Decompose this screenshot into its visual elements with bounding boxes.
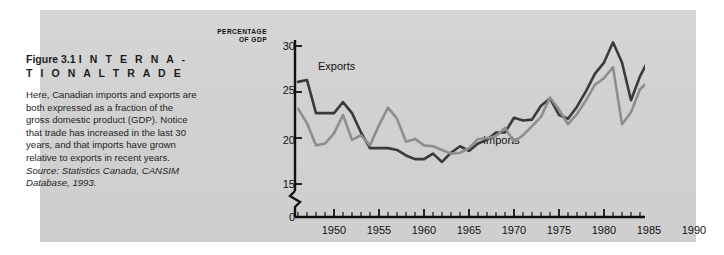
caption-figure-title-line1: I N T E R N A -	[79, 53, 188, 65]
caption-source: Source: Statistics Canada, CANSIM Databa…	[26, 165, 179, 189]
data-lines-group	[298, 42, 645, 162]
line-chart: PERCENTAGE OF GDP 30 25 20 15 0 1950 195…	[195, 8, 645, 232]
axes-group	[290, 40, 645, 217]
x-tick-label-1990: 1990	[674, 224, 714, 236]
caption-heading: Figure 3.1 I N T E R N A - T I O N A L T…	[26, 52, 198, 80]
plot-area	[195, 8, 645, 232]
caption-figure-title-line2: T I O N A L T R A D E	[26, 67, 183, 79]
caption-body-text: Here, Canadian imports and exports are b…	[26, 89, 197, 163]
caption-body: Here, Canadian imports and exports are b…	[26, 89, 198, 190]
caption-figure-number: Figure 3.1	[26, 53, 76, 65]
figure-root: Figure 3.1 I N T E R N A - T I O N A L T…	[0, 0, 724, 255]
figure-caption: Figure 3.1 I N T E R N A - T I O N A L T…	[26, 52, 198, 190]
